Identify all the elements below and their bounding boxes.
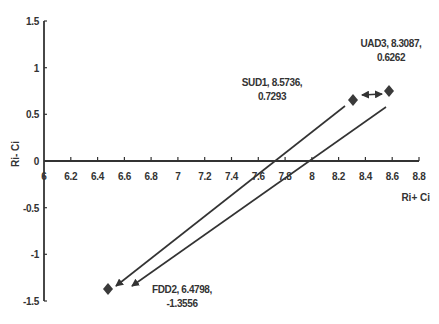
- y-tick-label: 0.5: [26, 109, 40, 120]
- x-tick-label: 8.8: [412, 171, 426, 182]
- y-tick-label: -1.5: [23, 296, 40, 307]
- y-tick-label: 1.5: [26, 16, 40, 27]
- y-tick-label: -1: [31, 249, 40, 260]
- causal-arrows: [116, 94, 386, 286]
- y-tick-label: -0.5: [23, 203, 40, 214]
- x-tick-label: 7.2: [198, 171, 212, 182]
- scatter-chart: 1.5 1 0.5 0 -0.5 -1 -1.5 Ri- Ci 6 6.2 6.…: [0, 0, 439, 324]
- x-tick-label: 7: [175, 171, 181, 182]
- x-tick-label: 6.6: [118, 171, 132, 182]
- x-tick-label: 6.2: [64, 171, 78, 182]
- x-tick-label: 8: [309, 171, 315, 182]
- x-tick-label: 6.8: [145, 171, 159, 182]
- diamond-marker-uad3: [348, 94, 358, 106]
- double-arrow-uad3-sud1: [362, 94, 382, 95]
- label-fdd2-line1: FDD2, 6.4798,: [152, 284, 212, 295]
- y-axis-title: Ri- Ci: [10, 141, 21, 167]
- data-points: [103, 85, 394, 295]
- x-tick-label: 8.2: [332, 171, 346, 182]
- x-tick-label: 6.4: [91, 171, 105, 182]
- x-tick-labels: 6 6.2 6.4 6.6 6.8 7 7.2 7.4 7.6 7.8 8 8.…: [41, 171, 426, 182]
- label-fdd2-line2: -1.3556: [166, 298, 198, 309]
- x-axis-title: Ri+ Ci: [401, 192, 430, 203]
- x-tick-label: 7.4: [225, 171, 239, 182]
- label-uad3-line2: 0.6262: [377, 52, 406, 63]
- y-tick-label: 1: [34, 63, 40, 74]
- x-tick-label: 7.6: [252, 171, 266, 182]
- arrow-sud1-to-fdd2: [116, 106, 345, 286]
- diamond-marker-sud1: [384, 85, 394, 97]
- arrow-uad3-to-fdd2: [132, 107, 386, 286]
- y-tick-label: 0: [34, 156, 40, 167]
- label-sud1-line2: 0.7293: [258, 91, 287, 102]
- label-sud1-line1: SUD1, 8.5736,: [242, 77, 303, 88]
- label-uad3-line1: UAD3, 8.3087,: [361, 38, 423, 49]
- x-tick-label: 6: [41, 171, 47, 182]
- x-tick-label: 8.6: [386, 171, 400, 182]
- diamond-marker-fdd2: [103, 283, 113, 295]
- x-axis: [44, 157, 419, 161]
- x-tick-label: 8.4: [359, 171, 373, 182]
- y-tick-labels: 1.5 1 0.5 0 -0.5 -1 -1.5: [23, 16, 40, 307]
